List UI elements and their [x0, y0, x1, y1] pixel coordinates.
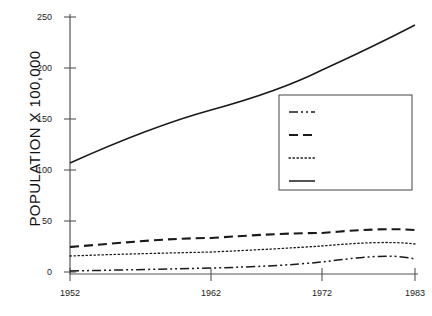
legend-box [279, 95, 412, 190]
line-chart: POPULATION X 100,000 250 200 150 100 50 … [0, 0, 432, 316]
chart-canvas [0, 0, 432, 316]
series-line-oregon [70, 243, 415, 256]
series-line-washington [70, 229, 415, 247]
series-line-alaska [70, 256, 415, 271]
